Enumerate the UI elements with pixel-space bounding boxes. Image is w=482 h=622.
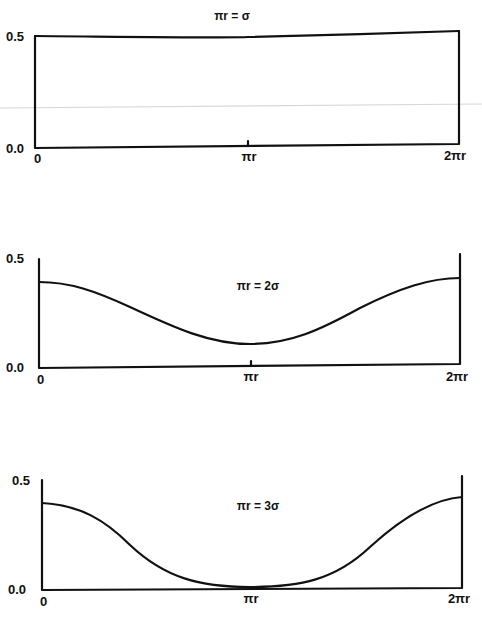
panel-1-x-label-mid: πr <box>241 149 256 164</box>
panel-1-x-label-end: 2πr <box>444 148 466 163</box>
panel-3-frame <box>42 476 462 590</box>
panel-2-x-label-end: 2πr <box>446 369 468 384</box>
panel-1-title: πr = σ <box>214 9 250 23</box>
scan-artifact-line <box>0 104 482 108</box>
panel-3-y-bottom-label: 0.0 <box>8 582 26 597</box>
panel-2-y-bottom-label: 0.0 <box>6 360 24 375</box>
panel-2-y-top-label: 0.5 <box>6 251 24 266</box>
panel-2-frame <box>39 254 460 368</box>
panel-1-y-top-label: 0.5 <box>6 29 24 44</box>
panel-2-x-label-0: 0 <box>37 372 44 387</box>
panel-1-y-bottom-label: 0.0 <box>6 141 24 156</box>
panel-1: πr = σ 0.5 0.0 0 πr 2πr <box>6 9 466 166</box>
panel-2: πr = 2σ 0.5 0.0 0 πr 2πr <box>6 251 468 387</box>
panel-3-x-label-mid: πr <box>243 591 258 606</box>
panel-2-x-label-mid: πr <box>243 369 258 384</box>
panel-1-x-label-0: 0 <box>34 151 41 166</box>
panel-3-title: πr = 3σ <box>237 499 279 513</box>
panel-3: πr = 3σ 0.5 0.0 0 πr 2πr <box>8 473 470 609</box>
panel-1-curve <box>35 31 459 37</box>
panel-1-frame <box>35 31 459 148</box>
panel-3-x-label-0: 0 <box>40 594 47 609</box>
panel-3-y-top-label: 0.5 <box>12 473 30 488</box>
figure: πr = σ 0.5 0.0 0 πr 2πr πr = 2σ 0.5 0.0 … <box>0 0 482 622</box>
panel-2-title: πr = 2σ <box>237 279 279 293</box>
panel-3-x-label-end: 2πr <box>448 591 470 606</box>
